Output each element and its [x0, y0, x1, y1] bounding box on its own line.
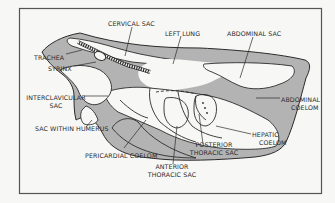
label-interclavicular-line2: SAC [26, 102, 86, 110]
label-pericardial-coelom: PERICARDIAL COELOM [85, 152, 157, 160]
label-hepatic-coelom: HEPATIC COELOM [252, 131, 287, 147]
label-abdominal-coelom: ABDOMINAL COELOM [281, 96, 320, 112]
label-interclavicular-line1: INTERCLAVICULAR [26, 94, 86, 102]
label-anterior-thoracic-line2: THORACIC SAC [146, 171, 198, 179]
label-anterior-thoracic-sac: ANTERIOR THORACIC SAC [146, 163, 198, 179]
label-posterior-thoracic-sac: POSTERIOR THORACIC SAC [188, 141, 240, 157]
label-trachea: TRACHEA [34, 54, 64, 62]
label-hepatic-coelom-line2: COELOM [252, 139, 287, 147]
label-abdominal-coelom-line1: ABDOMINAL [281, 96, 320, 104]
label-syrinx: SYRINX [48, 65, 72, 73]
label-interclavicular-sac: INTERCLAVICULAR SAC [26, 94, 86, 110]
label-posterior-thoracic-line2: THORACIC SAC [188, 149, 240, 157]
air-sac-diagram: CERVICAL SAC LEFT LUNG ABDOMINAL SAC TRA… [0, 0, 335, 203]
ostium-dot [206, 112, 208, 114]
label-abdominal-sac: ABDOMINAL SAC [227, 30, 281, 38]
label-hepatic-coelom-line1: HEPATIC [252, 131, 287, 139]
label-anterior-thoracic-line1: ANTERIOR [146, 163, 198, 171]
ostium-dot [202, 102, 204, 104]
label-sac-within-humerus: SAC WITHIN HUMERUS [35, 125, 108, 133]
label-posterior-thoracic-line1: POSTERIOR [188, 141, 240, 149]
ostium-dot [204, 107, 206, 109]
label-abdominal-coelom-line2: COELOM [281, 104, 320, 112]
label-left-lung: LEFT LUNG [165, 30, 200, 38]
label-cervical-sac: CERVICAL SAC [108, 20, 155, 28]
